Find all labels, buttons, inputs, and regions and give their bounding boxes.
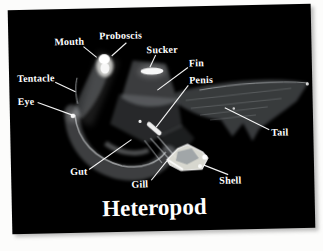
label-penis: Penis xyxy=(189,74,213,85)
leader-line-tentacle xyxy=(55,82,75,92)
label-eye: Eye xyxy=(17,96,34,107)
leader-line-shell xyxy=(204,165,228,176)
label-tentacle: Tentacle xyxy=(17,72,55,84)
label-tail: Tail xyxy=(271,126,288,137)
page-background: Mouth Proboscis Sucker Fin Penis Tentacl… xyxy=(0,0,323,251)
label-gut: Gut xyxy=(70,166,88,177)
heteropod-figure: Mouth Proboscis Sucker Fin Penis Tentacl… xyxy=(8,4,316,234)
label-sucker: Sucker xyxy=(146,44,177,56)
tentacle-shape xyxy=(76,78,78,104)
label-fin: Fin xyxy=(189,57,204,68)
leader-line-proboscis xyxy=(111,43,126,56)
gut-shape xyxy=(105,142,148,153)
label-proboscis: Proboscis xyxy=(99,29,142,41)
leader-line-mouth xyxy=(83,46,96,57)
label-shell: Shell xyxy=(219,174,241,185)
label-gill: Gill xyxy=(131,178,148,189)
label-mouth: Mouth xyxy=(54,36,84,48)
